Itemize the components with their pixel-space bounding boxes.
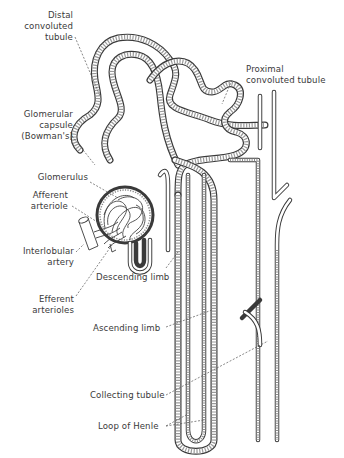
label-descending-limb: Descending limb [96,272,169,283]
label-line: Interlobular [0,246,74,257]
label-ascending-limb: Ascending limb [93,323,160,334]
label-line: Ascending limb [93,323,160,334]
label-line: arterioles [0,305,74,316]
label-line: Collecting tubule [90,390,165,401]
label-loop-of-henle: Loop of Henle [98,421,159,432]
descending-tubes [160,171,168,250]
loop-of-henle [175,160,214,451]
label-line: Loop of Henle [98,421,159,432]
label-line: arteriole [0,201,68,212]
label-line: (Bowman's) [0,131,73,142]
label-line: artery [0,257,74,268]
label-efferent-arterioles: Efferent arterioles [0,294,74,316]
label-line: Efferent [0,294,74,305]
label-line: capsule [0,120,73,131]
loop-of-henle-inner [188,175,204,441]
label-glomerulus: Glomerulus [0,172,88,183]
label-interlobular-artery: Interlobular artery [0,246,74,268]
label-line: Proximal [246,64,326,75]
label-line: Afferent [0,190,68,201]
nephron-diagram: Distal convoluted tubule Proximal convol… [0,0,344,458]
connecting-tubule [230,160,258,440]
label-distal-convoluted-tubule: Distal convoluted tubule [0,10,73,43]
label-line: Glomerulus [0,172,88,183]
small-loop [130,240,150,273]
distal-inner-loop [105,54,178,165]
label-line: convoluted tubule [246,75,326,86]
label-afferent-arteriole: Afferent arteriole [0,190,68,212]
label-line: tubule [0,32,73,43]
label-line: Distal [0,10,73,21]
label-proximal-convoluted-tubule: Proximal convoluted tubule [246,64,326,86]
label-line: Glomerular [0,109,73,120]
label-line: convoluted [0,21,73,32]
label-collecting-tubule: Collecting tubule [90,390,165,401]
label-glomerular-capsule: Glomerular capsule (Bowman's) [0,109,73,142]
label-line: Descending limb [96,272,169,283]
